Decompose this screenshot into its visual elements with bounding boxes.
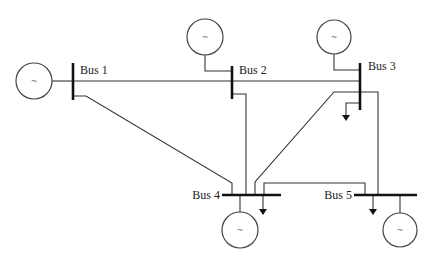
bus-1-label: Bus 1 <box>80 63 108 77</box>
svg-text:~: ~ <box>237 226 244 235</box>
line-bus3-bus4 <box>255 92 360 195</box>
load-bus4 <box>259 195 267 215</box>
generators: ~ ~ ~ ~ ~ <box>16 19 417 248</box>
generator-bus3: ~ <box>317 20 351 54</box>
load-arrow-icon <box>369 209 377 215</box>
buses <box>73 63 417 195</box>
svg-text:~: ~ <box>202 33 209 42</box>
svg-text:~: ~ <box>31 77 38 86</box>
bus-4-label: Bus 4 <box>192 188 220 202</box>
generator-bus1: ~ <box>16 63 52 99</box>
line-bus3-bus5 <box>360 92 378 195</box>
svg-text:~: ~ <box>331 33 338 42</box>
power-system-diagram: ~ ~ ~ ~ ~ Bus 1 Bus 2 Bus 3 Bus 4 Bus 5 <box>0 0 432 261</box>
transmission-lines <box>73 81 378 195</box>
load-bus3 <box>342 103 360 121</box>
line-bus1-bus4 <box>73 96 232 195</box>
svg-text:~: ~ <box>397 226 404 235</box>
bus-5-label: Bus 5 <box>324 188 352 202</box>
bus-3-label: Bus 3 <box>368 59 396 73</box>
generator-bus5: ~ <box>383 213 417 247</box>
generator-bus4: ~ <box>222 212 258 248</box>
loads <box>259 103 377 215</box>
load-bus5 <box>369 195 377 215</box>
line-bus2-bus4 <box>232 94 246 195</box>
load-arrow-icon <box>259 209 267 215</box>
load-arrow-icon <box>342 115 350 121</box>
generator-bus2: ~ <box>187 19 223 55</box>
bus-2-label: Bus 2 <box>239 63 267 77</box>
